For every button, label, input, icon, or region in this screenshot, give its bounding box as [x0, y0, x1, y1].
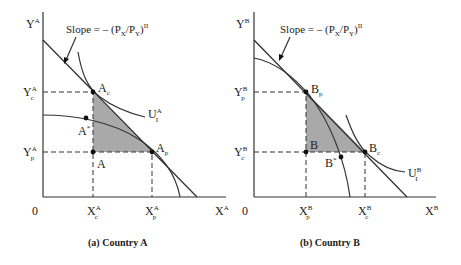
- slope-arrow-a: [66, 37, 76, 60]
- x-tick-b-p: XBp: [299, 204, 313, 221]
- label-indifference-b: UBI: [408, 166, 422, 183]
- x-axis-label-b: XB: [425, 204, 439, 218]
- label-a-autarky: A*: [78, 124, 91, 138]
- point-a-autarky: [84, 116, 89, 121]
- arrowhead-icon: [279, 54, 284, 61]
- guide-consumption-a: [43, 92, 93, 197]
- label-a-corner: A: [97, 157, 106, 171]
- x-tick-a-p: XAp: [145, 204, 159, 221]
- y-tick-a-c: YAc: [23, 85, 37, 102]
- trade-diagram: YA XA 0 Slope = – (PX/PY)II YAc YAp XAc …: [0, 0, 461, 265]
- x-tick-b-c: XBc: [358, 204, 372, 221]
- y-axis-label-a: YA: [26, 17, 40, 31]
- point-b-consumption: [363, 150, 368, 155]
- price-line-b: [254, 40, 407, 197]
- panel-country-a: YA XA 0 Slope = – (PX/PY)II YAc YAp XAc …: [23, 12, 229, 249]
- label-b-production: Bp: [311, 82, 323, 98]
- point-b-production: [304, 90, 309, 95]
- label-b-consumption: Bc: [369, 141, 380, 157]
- x-axis-label-a: XA: [215, 204, 229, 218]
- point-a-corner: [91, 150, 96, 155]
- label-b-autarky: B*: [325, 156, 337, 170]
- slope-label-a: Slope = – (PX/PY)II: [66, 22, 149, 38]
- y-tick-b-c: YBc: [234, 145, 248, 162]
- y-tick-b-p: YBp: [234, 85, 248, 102]
- point-a-consumption: [91, 90, 96, 95]
- y-axis-label-b: YB: [236, 17, 250, 31]
- caption-b: (b) Country B: [300, 237, 360, 249]
- guide-production-b: [254, 92, 306, 197]
- guide-consumption-b: [254, 152, 365, 197]
- point-b-autarky: [339, 155, 344, 160]
- slope-arrow-b: [281, 37, 290, 57]
- price-line-a: [43, 40, 197, 197]
- slope-label-b: Slope = – (PX/PY)II: [280, 22, 363, 38]
- label-indifference-a: UAI: [148, 107, 162, 124]
- label-b-corner: B: [310, 138, 318, 152]
- point-b-corner: [304, 150, 309, 155]
- label-a-consumption: Ac: [98, 81, 110, 97]
- origin-a: 0: [32, 204, 38, 218]
- label-a-production: Ap: [156, 141, 169, 157]
- caption-a: (a) Country A: [88, 237, 148, 249]
- y-tick-a-p: YAp: [23, 145, 37, 162]
- indifference-curve-a: [78, 52, 145, 117]
- x-tick-a-c: XAc: [87, 204, 101, 221]
- panel-country-b: YB XB 0 Slope = – (PX/PY)II YBp YBc XBp …: [234, 12, 439, 249]
- arrowhead-icon: [64, 57, 69, 64]
- origin-b: 0: [242, 204, 248, 218]
- point-a-production: [150, 150, 155, 155]
